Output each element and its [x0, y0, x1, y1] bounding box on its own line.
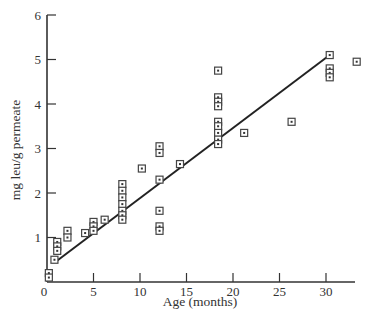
data-point-marker	[101, 216, 108, 223]
data-point-marker	[156, 149, 163, 156]
data-point-marker	[215, 67, 222, 74]
data-point-marker	[64, 227, 71, 234]
data-point-marker	[156, 207, 163, 214]
x-tick-label: 0	[41, 284, 48, 299]
x-tick-label: 10	[134, 284, 147, 299]
data-point-marker	[45, 274, 52, 281]
x-tick-label: 5	[90, 284, 97, 299]
data-point-marker	[119, 187, 126, 194]
data-point-marker	[215, 123, 222, 130]
data-point-marker	[156, 143, 163, 150]
data-point-marker	[288, 118, 295, 125]
y-tick-label: 2	[35, 186, 42, 201]
data-point-marker	[54, 247, 61, 254]
data-point-marker	[138, 165, 145, 172]
scatter-chart: 123456 051015202530 Age (months) mg leu/…	[0, 0, 374, 324]
data-point-marker	[119, 216, 126, 223]
y-axis-title: mg leu/g permeate	[8, 100, 23, 200]
data-point-marker	[215, 129, 222, 136]
data-points	[45, 52, 360, 281]
y-tick-label: 6	[35, 8, 42, 23]
data-point-marker	[51, 256, 58, 263]
data-point-marker	[90, 227, 97, 234]
data-point-marker	[156, 176, 163, 183]
y-tick-label: 1	[35, 230, 42, 245]
x-tick-label: 30	[320, 284, 333, 299]
data-point-marker	[119, 181, 126, 188]
data-point-marker	[215, 141, 222, 148]
data-point-marker	[241, 129, 248, 136]
y-ticks: 123456	[35, 8, 57, 246]
data-point-marker	[119, 194, 126, 201]
data-point-marker	[353, 58, 360, 65]
data-point-marker	[156, 227, 163, 234]
y-tick-label: 4	[35, 97, 42, 112]
data-point-marker	[326, 74, 333, 81]
x-axis-title: Age (months)	[163, 294, 238, 309]
y-tick-label: 5	[35, 52, 42, 67]
data-point-marker	[176, 161, 183, 168]
data-point-marker	[119, 201, 126, 208]
data-point-marker	[82, 230, 89, 237]
data-point-marker	[215, 103, 222, 110]
y-tick-label: 3	[35, 141, 42, 156]
x-tick-label: 25	[273, 284, 286, 299]
data-point-marker	[326, 52, 333, 59]
data-point-marker	[64, 234, 71, 241]
axes	[47, 15, 355, 282]
